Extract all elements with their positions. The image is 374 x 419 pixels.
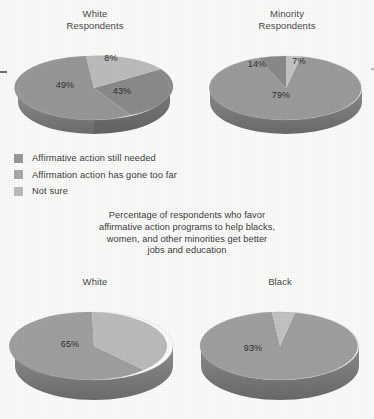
legend-item-not-sure: Not sure bbox=[14, 183, 177, 200]
pie-label-43: 43% bbox=[113, 86, 132, 96]
pie-label-14: 14% bbox=[248, 59, 267, 69]
legend-label-still-needed: Affirmative action still needed bbox=[32, 153, 156, 163]
pie-label-65: 65% bbox=[61, 339, 80, 349]
pie-svg-white-respondents bbox=[16, 42, 172, 134]
legend-swatch-still-needed bbox=[14, 154, 23, 163]
pie-label-49: 49% bbox=[56, 80, 75, 90]
pie-svg-black-favor bbox=[198, 296, 362, 400]
legend-item-gone-too-far: Affirmation action has gone too far bbox=[14, 167, 177, 184]
pie-chart-minority-respondents: 14% 7% 79% bbox=[208, 42, 364, 134]
caption-line-4: jobs and education bbox=[0, 245, 374, 257]
caption-line-3: women, and other minorities get better bbox=[0, 234, 374, 246]
chart-title-minority-respondents: Minority Respondents bbox=[225, 8, 349, 31]
pie-svg-minority-respondents bbox=[208, 42, 364, 134]
pie-label-93: 93% bbox=[244, 343, 263, 353]
legend-swatch-not-sure bbox=[14, 187, 23, 196]
pie-label-79: 79% bbox=[272, 90, 291, 100]
legend-label-not-sure: Not sure bbox=[32, 186, 68, 196]
caption-line-2: affirmative action programs to help blac… bbox=[0, 222, 374, 234]
legend: Affirmative action still needed Affirmat… bbox=[14, 150, 177, 200]
chart-title-black: Black bbox=[230, 276, 330, 288]
legend-swatch-gone-too-far bbox=[14, 170, 23, 179]
pie-chart-white-respondents: 49% 43% 8% bbox=[16, 42, 172, 134]
caption-block: Percentage of respondents who favor affi… bbox=[0, 210, 374, 257]
legend-item-still-needed: Affirmative action still needed bbox=[14, 150, 177, 167]
scan-artifact-left-tick bbox=[0, 71, 7, 73]
pie-label-8: 8% bbox=[104, 53, 117, 63]
pie-svg-white-favor bbox=[12, 296, 176, 400]
pie-chart-black-favor: 93% bbox=[198, 296, 362, 400]
caption-line-1: Percentage of respondents who favor bbox=[0, 210, 374, 222]
pie-chart-white-favor: 65% bbox=[12, 296, 176, 400]
legend-label-gone-too-far: Affirmation action has gone too far bbox=[32, 170, 177, 180]
chart-title-white: White bbox=[45, 276, 145, 288]
chart-title-white-respondents: White Respondents bbox=[35, 8, 155, 31]
pie-label-7: 7% bbox=[292, 56, 305, 66]
